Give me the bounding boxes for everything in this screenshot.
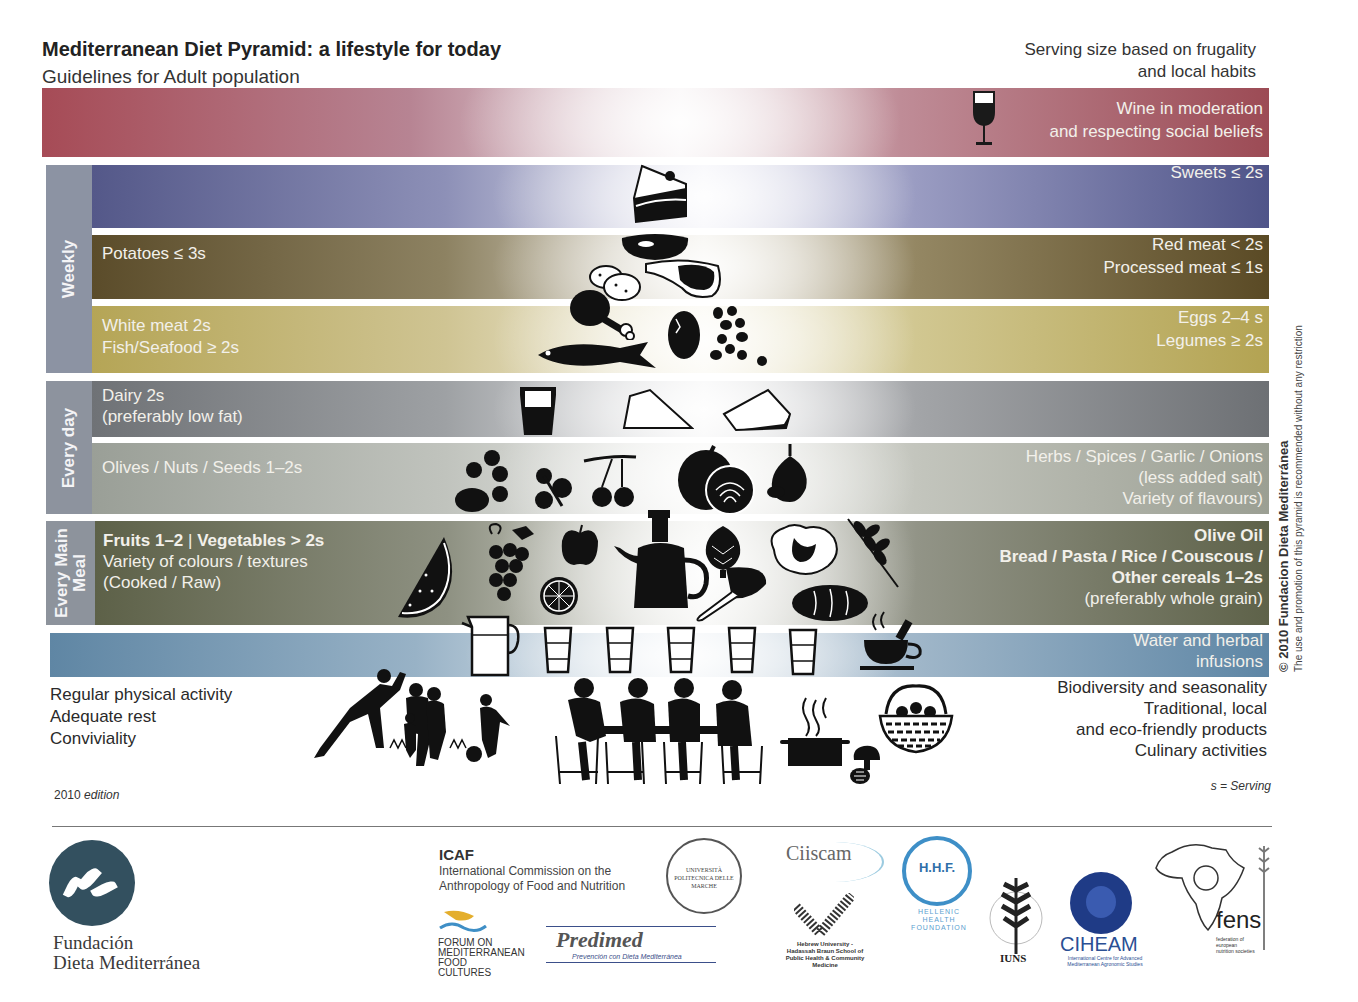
bread-icon [790,583,870,623]
cooking-pot-icon [776,696,854,768]
lifestyle-item: Adequate rest [50,706,232,728]
garlic-icon [766,442,810,504]
processed-meat-line: Processed meat ≤ 1s [1103,257,1263,278]
fundacion-logo-icon [49,840,135,926]
fundacion-name: Fundación Dieta Mediterránea [53,933,200,973]
ciiscam-logo: Ciiscam [786,842,884,882]
beans-icon [706,305,772,367]
dairy-line: Dairy 2s [102,385,243,406]
hebrew-university-name: Hebrew University - Hadassah Braun Schoo… [782,941,868,969]
legumes-line: Legumes ≥ 2s [1156,330,1263,351]
cheese-wedge-icon [622,388,694,432]
wheat-ear-icon [986,874,1046,958]
band-water: Water and herbal infusions [50,633,1269,677]
frequency-every-day: Every day [46,381,92,514]
frequency-weekly: Weekly [46,165,92,373]
forum-text: FORUM ON MEDITERRANEAN FOOD CULTURES [438,938,518,978]
cake-slice-icon [630,162,690,224]
family-activity-icon [310,668,524,768]
fish-line: Fish/Seafood ≥ 2s [102,337,239,358]
fundacion-name-line: Fundación [53,933,200,953]
grapes-icon [482,522,542,606]
water-glass-icon [604,625,636,675]
hhf-subtitle-line: FOUNDATION [904,924,974,932]
herbal-tea-icon [860,610,926,672]
ciheam-subtitle: International Centre for Advanced Medite… [1060,955,1150,967]
water-glass-icon [787,627,819,677]
eggs-legumes-text: Eggs 2–4 s Legumes ≥ 2s [1156,307,1263,351]
wine-text: Wine in moderation and respecting social… [1049,98,1263,142]
red-meat-text: Red meat < 2s Processed meat ≤ 1s [1103,235,1263,278]
icaf-line: Anthropology of Food and Nutrition [439,879,625,894]
band-highlight [50,633,1269,677]
olives-icon [582,453,638,509]
cooked-raw-line: (Cooked / Raw) [103,572,324,593]
fens-name: fens [1216,906,1261,934]
iuns-logo: IUNS [986,874,1046,962]
icaf-line: International Commission on the [439,864,625,879]
cheese-wedge-icon [722,388,792,432]
steak-icon [642,258,724,300]
fundacion-name-line: Dieta Mediterránea [53,953,200,973]
watermelon-icon [396,535,458,621]
pyramid-subtitle: Guidelines for Adult population [42,66,300,88]
pyramid-title: Mediterranean Diet Pyramid: a lifestyle … [42,38,501,61]
hhf-logo-icon: H.H.F. [902,836,972,906]
nuts-icon [454,448,520,514]
frequency-label: Every Main Meal [53,528,89,618]
herb-icon [532,466,576,512]
orange-slice-icon [538,575,580,617]
hhf-subtitle: HELLENIC HEALTH FOUNDATION [904,908,974,932]
wine-line: and respecting social beliefs [1049,121,1263,142]
hebrew-university-grid-icon [794,893,854,937]
copyright-notice: © 2010 Fundacion Dieta Mediterránea The … [1276,282,1318,672]
wheat-icon [846,515,900,589]
edition-year: 2010 [54,788,81,802]
predimed-subtitle: Prevención con Dieta Mediterránea [546,953,716,963]
ciiscam-name: Ciiscam [786,842,882,865]
serving-note-line: Serving size based on frugality [1024,39,1256,61]
cereals-line: Bread / Pasta / Rice / Couscous / [999,546,1263,567]
footer-divider [52,826,1272,827]
variety-line: Variety of colours / textures [103,551,324,572]
herbs-line: (less added salt) [1026,467,1263,488]
red-meat-line: Red meat < 2s [1103,235,1263,255]
herbs-line: Herbs / Spices / Garlic / Onions [1026,446,1263,467]
wine-line: Wine in moderation [1049,98,1263,119]
frequency-label-line: Every Main [53,528,71,618]
lifestyle-item: Regular physical activity [50,684,232,706]
edition-word: edition [84,788,119,802]
ciheam-name: CIHEAM [1060,933,1138,956]
onion-icon [676,440,758,516]
water-line: infusions [1133,651,1263,672]
vegetables-label: Vegetables > 2s [197,531,324,550]
fens-subtitle: federation of european nutrition societi… [1216,936,1256,954]
water-glass-icon [726,625,758,675]
water-glass-icon [665,625,697,675]
olive-oil-line: Olive Oil [999,525,1263,546]
apple-icon [558,523,602,567]
herbs-line: Variety of flavours) [1026,488,1263,509]
whole-grain-line: (preferably whole grain) [999,588,1263,609]
lifestyle-item: Traditional, local [1057,698,1267,719]
frequency-every-main-meal: Every Main Meal [46,521,95,625]
water-line: Water and herbal [1133,633,1263,651]
olives-text: Olives / Nuts / Seeds 1–2s [102,457,302,478]
chicken-leg-icon [568,288,640,340]
iuns-name: IUNS [1000,952,1026,964]
fruits-label: Fruits 1–2 [103,531,183,550]
edition-label: 2010 edition [54,788,119,802]
icaf-description: International Commission on the Anthropo… [439,864,625,894]
lifestyle-item: and eco-friendly products [1057,719,1267,740]
frequency-label: Weekly [60,240,78,298]
egg-icon [666,307,702,361]
predimed-logo: Predimed Prevención con Dieta Mediterrán… [546,926,716,963]
cereals-serving-line: Other cereals 1–2s [999,567,1263,588]
fruits-vegetables-text: Fruits 1–2 | Vegetables > 2s Variety of … [103,530,324,593]
white-meat-text: White meat 2s Fish/Seafood ≥ 2s [102,315,239,358]
serving-legend: s = Serving [1211,779,1271,793]
leafy-vegetable-icon [692,564,770,624]
serving-size-note: Serving size based on frugality and loca… [1024,39,1256,83]
basket-icon [876,684,956,756]
ciheam-emblem-icon [1070,872,1132,934]
